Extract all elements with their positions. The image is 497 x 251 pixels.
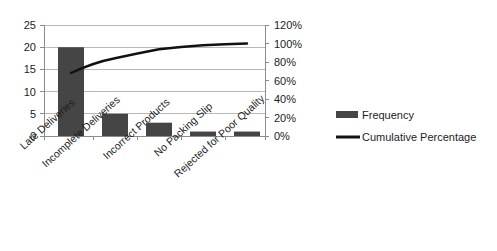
- pareto-chart: 25 20 15 10 5 0 120% 100% 80% 60% 40% 20…: [0, 0, 497, 251]
- left-axis-tick-label: 20: [24, 41, 36, 53]
- right-axis-tick-label: 80%: [274, 56, 296, 68]
- right-axis-tick-label: 40%: [274, 93, 296, 105]
- right-axis-tick-label: 100%: [274, 38, 302, 50]
- chart-canvas: 25 20 15 10 5 0 120% 100% 80% 60% 40% 20…: [0, 0, 497, 251]
- legend-label-cumulative-percentage: Cumulative Percentage: [362, 131, 476, 143]
- legend-label-frequency: Frequency: [362, 109, 414, 121]
- left-axis-tick-label: 10: [24, 86, 36, 98]
- right-axis-tick-label: 20%: [274, 112, 296, 124]
- legend-bar-swatch-icon: [336, 111, 358, 118]
- left-axis-tick-label: 25: [24, 19, 36, 31]
- bar-rejected-poor-quality: [234, 132, 260, 136]
- right-axis-tick-label: 120%: [274, 19, 302, 31]
- right-axis-tick-label: 0%: [274, 130, 290, 142]
- left-axis-tick-label: 5: [30, 108, 36, 120]
- left-axis-tick-label: 15: [24, 63, 36, 75]
- right-axis-tick-label: 60%: [274, 75, 296, 87]
